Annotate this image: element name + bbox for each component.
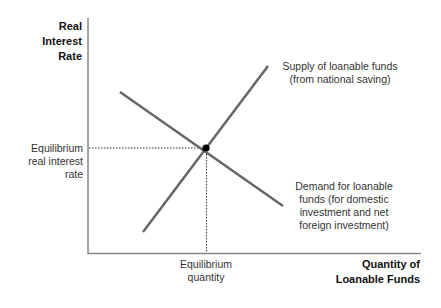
supply-label-line: (from national saving) <box>270 73 410 86</box>
y-axis-label: Real Interest Rate <box>42 19 82 64</box>
equilibrium-point <box>202 144 209 151</box>
equilibrium-rate-label-line: rate <box>28 168 83 181</box>
demand-curve <box>120 92 283 206</box>
demand-label-line: investment and net <box>288 206 400 219</box>
equilibrium-rate-label-line: real interest <box>28 155 83 168</box>
equilibrium-quantity-label-line: quantity <box>166 271 246 284</box>
equilibrium-rate-label-line: Equilibrium <box>28 142 83 155</box>
y-axis-label-line: Rate <box>42 49 82 64</box>
x-axis-label: Quantity of Loanable Funds <box>336 257 420 287</box>
equilibrium-quantity-label: Equilibrium quantity <box>166 258 246 284</box>
y-axis-label-line: Interest <box>42 34 82 49</box>
supply-label: Supply of loanable funds (from national … <box>270 60 410 86</box>
demand-label: Demand for loanable funds (for domestic … <box>288 180 400 232</box>
x-axis-label-line: Quantity of <box>336 257 420 272</box>
equilibrium-rate-label: Equilibrium real interest rate <box>28 142 83 181</box>
demand-label-line: funds (for domestic <box>288 193 400 206</box>
demand-label-line: Demand for loanable <box>288 180 400 193</box>
demand-label-line: foreign investment) <box>288 219 400 232</box>
y-axis-label-line: Real <box>42 19 82 34</box>
equilibrium-quantity-label-line: Equilibrium <box>166 258 246 271</box>
x-axis-label-line: Loanable Funds <box>336 272 420 287</box>
supply-label-line: Supply of loanable funds <box>270 60 410 73</box>
